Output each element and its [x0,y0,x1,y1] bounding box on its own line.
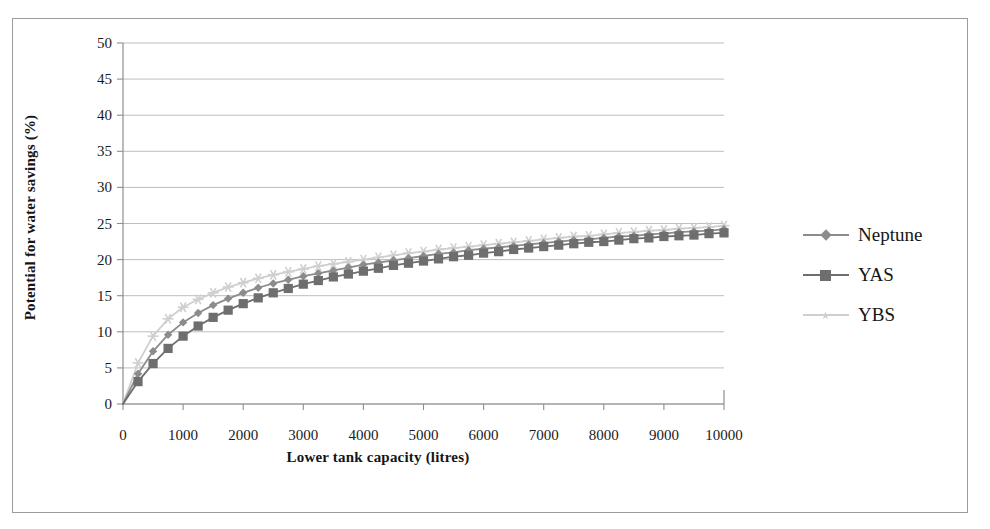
x-axis-ticks [123,404,724,410]
legend-label: YAS [858,264,894,286]
legend-marker-diamond-icon [803,228,849,242]
gridlines [123,43,724,404]
legend-label: Neptune [858,224,922,246]
series-ybs [123,221,729,404]
data-series-group [123,221,729,404]
legend-item-yas[interactable]: YAS [803,255,963,295]
legend-label: YBS [858,304,895,326]
legend-item-neptune[interactable]: Neptune [803,215,963,255]
chart-legend: NeptuneYASYBS [803,215,963,335]
legend-item-ybs[interactable]: YBS [803,295,963,335]
figure-frame: Potential for water savings (%) Lower ta… [12,18,968,513]
legend-marker-star-icon [803,308,849,322]
legend-marker-square-icon [803,268,849,282]
y-axis-ticks [117,43,123,404]
